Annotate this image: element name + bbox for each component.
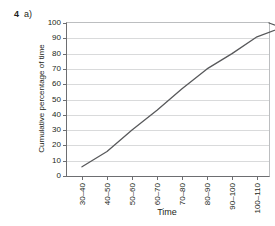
x-tick-mark	[132, 176, 133, 180]
x-axis-title: Time	[66, 207, 268, 217]
data-series-line	[67, 23, 269, 176]
y-tick-label: 90	[41, 34, 61, 42]
y-tick-label: 20	[41, 141, 61, 149]
y-tick-label: 0	[41, 172, 61, 180]
x-tick-mark	[232, 176, 233, 180]
cumulative-frequency-chart: Cumulative percentage of time 0102030405…	[0, 0, 275, 226]
x-tick-label: 60–70	[153, 183, 162, 205]
y-tick-label: 30	[41, 126, 61, 134]
x-tick-label: 80–90	[203, 183, 212, 205]
y-tick-label: 50	[41, 96, 61, 104]
y-tick-label: 100	[41, 19, 61, 27]
y-tick-mark	[63, 176, 67, 177]
x-tick-label: 90–100	[228, 183, 237, 210]
y-tick-label: 10	[41, 157, 61, 165]
x-tick-mark	[107, 176, 108, 180]
x-tick-mark	[207, 176, 208, 180]
plot-area: 0102030405060708090100 30–4040–5050–6060…	[66, 22, 270, 177]
x-tick-mark	[82, 176, 83, 180]
x-tick-label: 30–40	[78, 183, 87, 205]
x-tick-mark	[182, 176, 183, 180]
x-tick-label: 40–50	[103, 183, 112, 205]
x-tick-label: 50–60	[128, 183, 137, 205]
y-tick-label: 70	[41, 65, 61, 73]
y-tick-label: 60	[41, 80, 61, 88]
x-tick-mark	[257, 176, 258, 180]
x-tick-mark	[157, 176, 158, 180]
x-tick-label: 70–80	[178, 183, 187, 205]
y-tick-label: 40	[41, 111, 61, 119]
y-tick-label: 80	[41, 50, 61, 58]
